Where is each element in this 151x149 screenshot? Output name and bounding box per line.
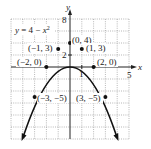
equation-label: y = 4 − x2 [14,25,50,35]
point-label-neg3-neg5: (−3, −5) [37,93,67,103]
point-2-0 [92,65,96,69]
point-label-3-neg5: (3, −5) [76,93,101,103]
tick-label-5: 5 [127,70,132,80]
x-axis-arrow-icon [131,65,137,69]
point-neg1-3 [56,47,60,51]
point-neg3-neg5 [33,95,37,99]
tick-label-2: 2 [62,50,67,60]
point-label-neg2-0: (−2, 0) [17,57,42,67]
tick-label-1: 1 [79,69,84,79]
point-label-1-3: (1, 3) [86,43,106,53]
parabola-chart: y = 4 − x2 y x 8 2 1 5 (0, 4) (−1, 3) (1… [0,0,151,149]
x-axis-label: x [137,62,142,72]
curve-arrow-left-icon [22,133,27,141]
point-neg2-0 [44,65,48,69]
curve-arrow-right-icon [114,133,119,141]
y-axis-label: y [65,2,70,12]
point-3-neg5 [103,95,107,99]
point-label-2-0: (2, 0) [97,57,117,67]
point-label-neg1-3: (−1, 3) [28,43,53,53]
point-1-3 [80,47,84,51]
tick-label-8: 8 [62,15,67,25]
